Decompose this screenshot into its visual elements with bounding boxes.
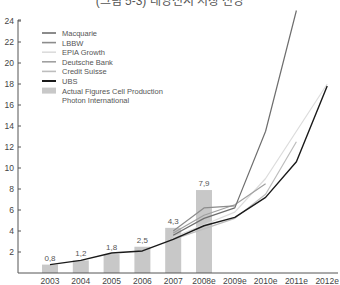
y-tick-label: 10 xyxy=(5,163,15,173)
legend-label: LBBW xyxy=(62,39,84,48)
legend-label: Deutsche Bank xyxy=(62,58,113,67)
bar xyxy=(104,254,120,273)
legend-label: Photon International xyxy=(62,96,129,105)
legend-swatch-bar xyxy=(42,88,56,94)
bar xyxy=(73,260,89,273)
legend-label: UBS xyxy=(62,77,77,86)
y-tick-label: 14 xyxy=(5,121,15,131)
y-tick-label: 4 xyxy=(9,226,14,236)
x-tick-label: 2012e xyxy=(315,276,339,285)
legend-label: Macquarie xyxy=(62,29,97,38)
x-tick-label: 2004 xyxy=(71,276,90,285)
legend-label: Actual Figures Cell Production xyxy=(62,87,163,96)
legend-label: EPIA Growth xyxy=(62,48,105,57)
y-tick-label: 20 xyxy=(5,58,15,68)
x-tick-label: 2003 xyxy=(41,276,60,285)
bar-value-label: 0,8 xyxy=(44,254,56,263)
y-tick-label: 24 xyxy=(5,16,15,26)
y-tick-label: 2 xyxy=(9,247,14,257)
bar-value-label: 7,9 xyxy=(198,179,210,188)
bar-value-label: 2,5 xyxy=(137,236,149,245)
y-tick-label: 22 xyxy=(5,37,15,47)
y-tick-label: 16 xyxy=(5,100,15,110)
x-tick-label: 2010e xyxy=(254,276,278,285)
y-tick-label: 8 xyxy=(9,184,14,194)
y-tick-label: 6 xyxy=(9,205,14,215)
x-tick-label: 2008e xyxy=(192,276,216,285)
bar-value-label: 4,3 xyxy=(168,217,180,226)
bar xyxy=(196,190,212,273)
series-line-macquarie xyxy=(173,11,296,236)
x-tick-label: 2005 xyxy=(102,276,121,285)
bar xyxy=(42,265,58,273)
x-tick-label: 2006 xyxy=(133,276,152,285)
legend: MacquarieLBBWEPIA GrowthDeutsche BankCre… xyxy=(42,29,163,105)
legend-label: Credit Suisse xyxy=(62,67,107,76)
series-line-ubs xyxy=(50,86,327,265)
bar-value-label: 1,2 xyxy=(75,249,87,258)
x-tick-label: 2007 xyxy=(164,276,183,285)
bar-value-label: 1,8 xyxy=(106,243,118,252)
y-tick-label: 18 xyxy=(5,79,15,89)
x-tick-label: 2011e xyxy=(285,276,308,285)
x-tick-label: 2009e xyxy=(223,276,247,285)
chart: 0,81,21,82,54,37,92468101214161820222420… xyxy=(0,0,340,285)
series-line-deutsche-bank xyxy=(173,184,265,233)
y-tick-label: 12 xyxy=(5,142,15,152)
